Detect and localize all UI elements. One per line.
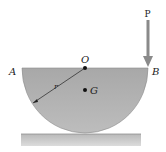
label-point-a: A — [8, 66, 16, 77]
centroid-point-g — [83, 88, 87, 92]
center-point-o — [83, 66, 87, 70]
hemisphere-diagram: P A B O G r — [0, 0, 166, 152]
ground-surface — [21, 134, 141, 146]
label-center-o: O — [81, 54, 89, 65]
force-arrow-shaft — [147, 20, 150, 58]
label-point-b: B — [151, 66, 159, 77]
label-force-p: P — [145, 9, 151, 19]
label-centroid-g: G — [90, 85, 98, 96]
hemisphere-body — [22, 68, 148, 133]
